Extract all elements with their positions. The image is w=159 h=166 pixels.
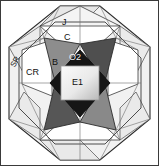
label-c: C (64, 33, 71, 42)
label-j: J (62, 18, 67, 27)
label-e1: E1 (72, 78, 83, 87)
label-cr: CR (26, 68, 39, 77)
figure-container: J C SR CR B O2 E1 (0, 0, 159, 166)
label-b: B (52, 58, 58, 67)
label-o2: O2 (69, 53, 81, 62)
